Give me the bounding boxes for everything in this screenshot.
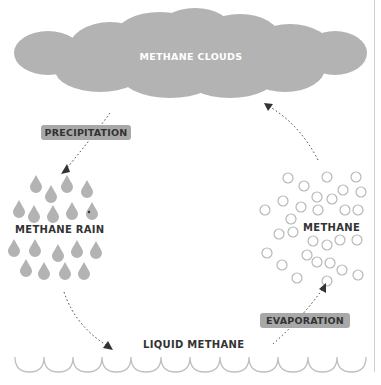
- methane-cycle-diagram: METHANE CLOUDS PRECIPITATION METHANE RAI…: [0, 0, 381, 385]
- arrowhead-precipitation-icon: [61, 164, 70, 174]
- arrow-to-clouds: [270, 107, 318, 160]
- node-methane-clouds: METHANE CLOUDS: [137, 51, 245, 62]
- right-border-rule: [374, 0, 375, 372]
- stray-dot: [88, 211, 90, 213]
- process-evaporation-tag: EVAPORATION: [260, 313, 350, 328]
- arrow-to-liquid: [64, 292, 106, 345]
- process-precipitation-tag: PRECIPITATION: [41, 125, 131, 140]
- liquid-surface-waves: [15, 357, 366, 372]
- node-methane-rain: METHANE RAIN: [15, 224, 105, 235]
- arrowhead-clouds-icon: [264, 103, 273, 111]
- arrowhead-liquid-icon: [103, 341, 113, 350]
- arrowhead-evaporation-icon: [319, 283, 326, 293]
- node-liquid-methane: LIQUID METHANE: [143, 339, 244, 350]
- node-methane-gas: METHANE: [303, 222, 360, 233]
- arrow-precipitation: [67, 113, 110, 168]
